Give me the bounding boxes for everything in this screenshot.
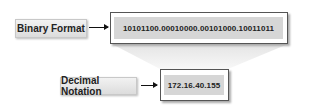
- binary-format-label-text: Binary Format: [17, 23, 85, 34]
- binary-value: 10101100.00010000.00101000.10011011: [114, 17, 283, 39]
- binary-value-box: 10101100.00010000.00101000.10011011: [110, 12, 288, 44]
- binary-arrow-icon: [89, 27, 108, 28]
- decimal-notation-label: Decimal Notation: [60, 77, 137, 95]
- decimal-arrow-icon: [141, 85, 157, 86]
- binary-value-text: 10101100.00010000.00101000.10011011: [123, 24, 274, 33]
- decimal-value-box: 172.16.40.155: [160, 69, 229, 101]
- decimal-value: 172.16.40.155: [164, 75, 224, 95]
- decimal-notation-label-text: Decimal Notation: [61, 75, 136, 97]
- binary-format-label: Binary Format: [15, 19, 87, 38]
- decimal-value-text: 172.16.40.155: [168, 81, 220, 90]
